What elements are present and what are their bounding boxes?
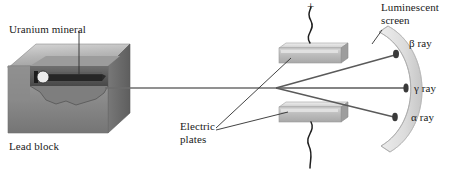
gamma-ray-label: γ ray <box>414 82 436 95</box>
gamma-ray-impact-spot <box>403 83 408 92</box>
uranium-mineral-label: Uranium mineral <box>9 23 86 36</box>
uranium-sample <box>37 71 49 83</box>
lead-block-label: Lead block <box>9 140 59 153</box>
beta-ray-impact-spot <box>393 50 399 58</box>
upper-plate-top-face <box>279 43 348 48</box>
electric-plates-label-line2: plates <box>180 133 206 146</box>
luminescent-screen-label-line1: Luminescent <box>381 1 439 14</box>
luminescent-screen-leader-line <box>372 30 382 44</box>
lower-plate-wire <box>308 122 312 168</box>
electric-plates-leader-line-lower <box>216 112 288 130</box>
lower-electric-plate <box>279 102 348 122</box>
upper-plate-highlight <box>281 50 338 53</box>
alpha-ray-label: α ray <box>411 111 434 124</box>
alpha-ray-impact-spot <box>392 113 398 121</box>
lower-plate-highlight <box>281 109 338 112</box>
luminescent-screen-label-line2: screen <box>381 14 410 27</box>
beta-ray-label: β ray <box>409 37 432 50</box>
radioactivity-ray-separation-figure: Uranium mineral Lead block Electric plat… <box>0 0 452 173</box>
electric-plates-label-line1: Electric <box>180 120 215 133</box>
lead-block-inner-shade-left <box>8 66 30 100</box>
positive-polarity-label: + <box>307 0 314 13</box>
